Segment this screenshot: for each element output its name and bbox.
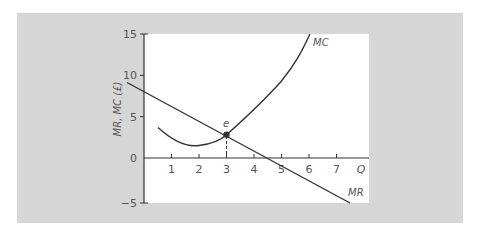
mr-label: MR <box>348 187 364 198</box>
mc-label: MC <box>313 37 329 48</box>
figure-panel: 15 10 5 0 −5 MR, MC (£) 1 2 3 4 5 6 7 Q <box>17 13 463 223</box>
equilibrium-point <box>223 132 229 138</box>
plot-area <box>144 34 369 203</box>
y-tick-label-10: 10 <box>123 69 137 82</box>
y-axis-title: MR, MC (£) <box>112 82 123 137</box>
y-tick-label-0: 0 <box>130 152 137 165</box>
point-e-label: e <box>223 118 229 129</box>
x-tick-label-6: 6 <box>306 163 313 176</box>
chart: 15 10 5 0 −5 MR, MC (£) 1 2 3 4 5 6 7 Q <box>17 13 463 223</box>
x-tick-label-2: 2 <box>196 163 203 176</box>
y-tick-label-neg5: −5 <box>121 197 137 210</box>
x-tick-label-3: 3 <box>223 163 230 176</box>
y-tick-label-15: 15 <box>123 28 137 41</box>
x-tick-label-7: 7 <box>333 163 340 176</box>
y-tick-label-5: 5 <box>130 111 137 124</box>
x-tick-label-1: 1 <box>168 163 175 176</box>
x-axis-title: Q <box>357 163 366 176</box>
x-tick-label-4: 4 <box>251 163 258 176</box>
